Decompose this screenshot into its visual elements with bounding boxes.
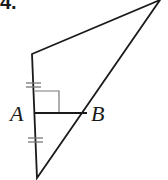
- point-label-a: A: [8, 101, 24, 126]
- geometry-diagram: A B: [0, 0, 168, 180]
- right-angle-marker: [35, 91, 59, 113]
- triangle: [32, 0, 160, 178]
- point-label-b: B: [91, 101, 104, 126]
